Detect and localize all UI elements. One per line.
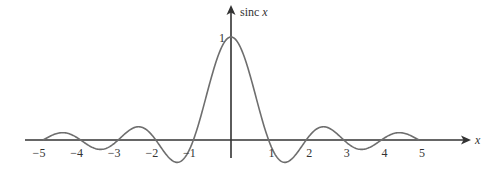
y-tick-label: 1 (219, 31, 225, 45)
x-tick-label: 1 (269, 146, 275, 160)
y-axis-label-name: sinc (240, 5, 259, 19)
x-tick-label: 5 (419, 146, 425, 160)
x-tick-label: 2 (306, 146, 312, 160)
x-tick-label: 4 (381, 146, 387, 160)
x-tick-label: −1 (183, 146, 196, 160)
y-axis-label-var: x (261, 5, 268, 19)
x-tick-label: −3 (108, 146, 121, 160)
x-tick-label: −4 (70, 146, 83, 160)
x-axis-label: x (474, 133, 481, 147)
sinc-chart: x sinc x 1 −5 −4 −3 −2 −1 1 2 3 4 5 (0, 0, 487, 172)
x-tick-label: −5 (33, 146, 46, 160)
y-axis-label: sinc x (240, 5, 268, 19)
x-tick-label: −2 (145, 146, 158, 160)
x-tick-label: 3 (344, 146, 350, 160)
